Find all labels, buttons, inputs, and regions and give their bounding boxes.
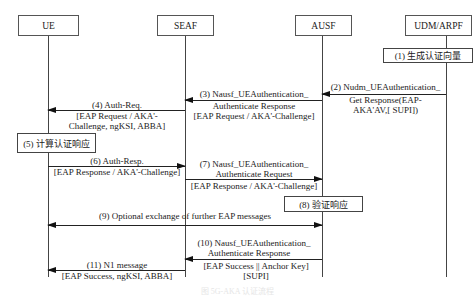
lifeline-ausf [322, 36, 323, 277]
entity-ausf: AUSF [295, 15, 352, 36]
step3-line2: Authenticate Response [186, 101, 322, 111]
step5-label: (5) 计算认证响应 [23, 137, 90, 150]
step9-arrow [48, 225, 322, 226]
step6-line1: (6) Auth-Resp. [49, 156, 185, 166]
step4-line3: Challenge, ngKSI, ABBA] [49, 121, 185, 131]
step7-line3: [EAP Response / AKA'-Challenge] [184, 181, 324, 191]
step3-line1: (3) Nausf_UEAuthentication_ [186, 89, 322, 99]
step1-note: (1) 生成认证向量 [383, 48, 473, 63]
entity-ue: UE [18, 15, 79, 36]
step11-line1: (11) N1 message [49, 260, 185, 270]
step10-line1: (10) Nausf_UEAuthentication_ [186, 238, 322, 248]
entity-ue-label: UE [42, 21, 55, 31]
step11-line2: [EAP Success, ngKSI, ABBA] [49, 271, 185, 281]
entity-ausf-label: AUSF [311, 21, 335, 31]
entity-udm-arpf: UDM/ARPF [405, 15, 472, 36]
step4-line1: (4) Auth-Req. [49, 100, 185, 110]
lifeline-udm-top [446, 36, 447, 48]
step1-label: (1) 生成认证向量 [395, 49, 462, 62]
step5-note: (5) 计算认证响应 [17, 133, 96, 153]
step10-line3: [EAP Success || Anchor Key] [190, 261, 322, 271]
step9-line1: (9) Optional exchange of further EAP mes… [48, 211, 322, 221]
step2-line2: Get Response(EAP- [325, 95, 446, 105]
entity-udm-label: UDM/ARPF [414, 21, 463, 31]
step7-line1: (7) Nausf_UEAuthentication_ [186, 159, 322, 169]
step8-label: (8) 验证响应 [299, 198, 348, 211]
step7-line2: Authenticate Request [186, 169, 322, 179]
step8-note: (8) 验证响应 [284, 196, 363, 212]
step2-line1: (2) Nudm_UEAuthentication_ [325, 82, 446, 92]
lifeline-udm [446, 62, 447, 277]
step10-line2: Authenticate Response [186, 248, 312, 258]
step10-arrow [185, 259, 322, 260]
step3-line3: [EAP Request / AKA'-Challenge] [186, 111, 322, 121]
step2-line3: AKA'AV,[ SUPI]) [325, 105, 446, 115]
step7-arrow [185, 179, 322, 180]
entity-seaf-label: SEAF [174, 21, 197, 31]
figure-caption: 图 5G-AKA 认证流程 [0, 285, 475, 296]
step10-line4: [SUPI] [190, 271, 322, 281]
step6-line2: [EAP Response / AKA'-Challenge] [47, 167, 187, 177]
step4-line2: [EAP Request / AKA'- [49, 111, 185, 121]
entity-seaf: SEAF [157, 15, 214, 36]
